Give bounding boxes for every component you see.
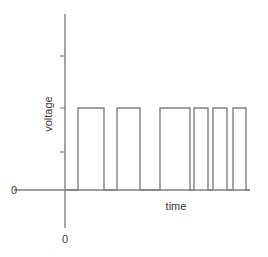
origin-label-bottom: 0 [62, 233, 68, 245]
pwm-waveform-figure: voltage time 0 0 [0, 0, 268, 257]
origin-label-left: 0 [11, 184, 17, 196]
pulse-train-waveform [65, 108, 250, 190]
y-axis-label: voltage [42, 96, 54, 131]
waveform-plot-canvas: voltage time 0 0 [0, 0, 268, 257]
x-axis-label: time [166, 200, 187, 212]
